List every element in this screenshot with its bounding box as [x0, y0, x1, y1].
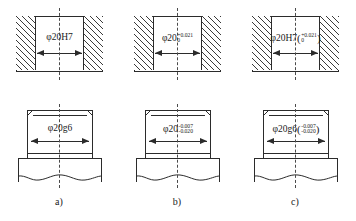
- section-hatching-right: [83, 16, 103, 70]
- hole-tolerance-stack: +0.0210: [301, 33, 317, 45]
- shaft-dimension-value: φ20: [163, 124, 178, 134]
- panel-caption-a: a): [0, 196, 118, 207]
- arrowhead-left-icon: [267, 138, 274, 144]
- open-paren: (: [297, 123, 301, 135]
- hole-dimension-value: φ20: [162, 33, 177, 43]
- close-paren: ): [316, 123, 320, 135]
- figure-panel-c: φ20H7(+0.0210) φ20g: [236, 0, 354, 221]
- arrowhead-right-icon: [75, 50, 82, 56]
- arrowhead-right-icon: [193, 50, 200, 56]
- shaft-dimension-text-b: φ20-0.007-0.020: [136, 124, 220, 136]
- panel-caption-c: c): [236, 196, 354, 207]
- arrowhead-right-icon: [82, 138, 89, 144]
- panel-caption-b: b): [118, 196, 236, 207]
- shaft-dimension-line: [31, 137, 89, 146]
- dimension-rule: [31, 141, 89, 142]
- tolerance-lower: -0.020: [179, 129, 193, 135]
- arrowhead-right-icon: [200, 138, 207, 144]
- shaft-tolerance-stack: -0.007-0.020: [301, 124, 315, 136]
- arrowhead-right-icon: [318, 138, 325, 144]
- dimension-rule: [149, 141, 207, 142]
- dimension-rule: [267, 141, 325, 142]
- shaft-chamfer-right: [204, 110, 211, 116]
- arrowhead-left-icon: [31, 138, 38, 144]
- shaft-centerline: [59, 104, 60, 188]
- shaft-view-a: φ20g6: [18, 110, 102, 182]
- arrowhead-left-icon: [155, 50, 162, 56]
- arrowhead-left-icon: [149, 138, 156, 144]
- shaft-dimension-line: [149, 137, 207, 146]
- break-line: [136, 172, 220, 183]
- break-line: [254, 172, 338, 183]
- shaft-centerline: [177, 104, 178, 188]
- hole-centerline: [295, 8, 296, 80]
- shaft-top-edge: [33, 115, 87, 116]
- shaft-chamfer-right: [86, 110, 93, 116]
- open-paren: (: [297, 32, 301, 44]
- shaft-dimension-text-c: φ20g6(-0.007-0.020): [254, 124, 338, 136]
- arrowhead-right-icon: [311, 50, 318, 56]
- shaft-view-c: φ20g6(-0.007-0.020): [254, 110, 338, 182]
- hole-dimension-value: φ20H7: [270, 33, 297, 43]
- arrowhead-left-icon: [37, 50, 44, 56]
- shaft-tolerance-stack: -0.007-0.020: [179, 124, 193, 136]
- shaft-top-edge: [151, 115, 205, 116]
- hole-centerline: [177, 8, 178, 80]
- shaft-view-b: φ20-0.007-0.020: [136, 110, 220, 182]
- shaft-top-edge: [269, 115, 323, 116]
- hole-tolerance-stack: +0.0210: [177, 33, 193, 45]
- section-hatching-left: [16, 16, 36, 70]
- arrowhead-left-icon: [273, 50, 280, 56]
- hole-centerline: [59, 8, 60, 80]
- tolerance-lower: 0: [177, 38, 193, 44]
- break-line: [18, 172, 102, 183]
- shaft-dimension-text-a: φ20g6: [18, 124, 102, 134]
- shaft-dimension-line: [267, 137, 325, 146]
- tolerance-lower: -0.020: [301, 129, 315, 135]
- shaft-chamfer-right: [322, 110, 329, 116]
- figure-panel-a: φ20H7: [0, 0, 118, 221]
- close-paren: ): [317, 32, 321, 44]
- shaft-centerline: [295, 104, 296, 188]
- shaft-dimension-value: φ20g6: [273, 124, 297, 134]
- tolerance-lower: 0: [301, 38, 317, 44]
- figure-panel-b: φ20+0.0210: [118, 0, 236, 221]
- engineering-drawing-figure: φ20H7: [0, 0, 356, 221]
